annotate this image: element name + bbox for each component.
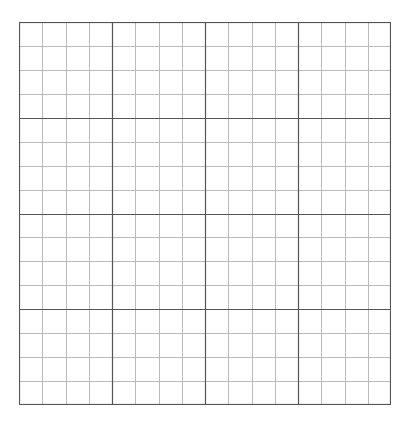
graph-paper-grid — [19, 22, 391, 405]
grid-lines — [19, 22, 391, 405]
